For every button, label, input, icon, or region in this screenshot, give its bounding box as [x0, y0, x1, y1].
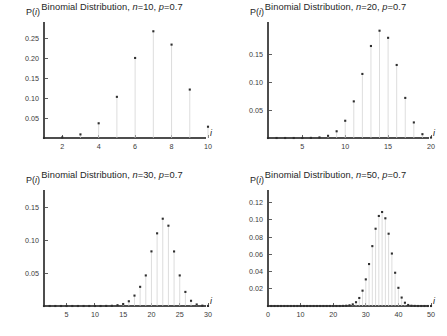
svg-text:i: i — [210, 128, 213, 138]
svg-text:40: 40 — [394, 310, 402, 319]
svg-text:50: 50 — [427, 310, 435, 319]
plot-area-n30: P(i)i0.050.100.1551015202530 — [0, 168, 224, 336]
chart-panel-n10: Binomial Distribution, n=10, p=0.7 P(i)i… — [0, 0, 224, 168]
svg-text:20: 20 — [147, 310, 155, 319]
svg-text:20: 20 — [427, 142, 435, 151]
svg-text:0.05: 0.05 — [25, 269, 39, 278]
svg-text:10: 10 — [297, 310, 305, 319]
svg-text:0: 0 — [266, 310, 270, 319]
svg-text:25: 25 — [176, 310, 184, 319]
chart-panel-n20: Binomial Distribution, n=20, p=0.7 P(i)i… — [224, 0, 447, 168]
svg-text:0.10: 0.10 — [25, 94, 39, 103]
svg-text:30: 30 — [204, 310, 212, 319]
chart-panel-n30: Binomial Distribution, n=30, p=0.7 P(i)i… — [0, 168, 224, 336]
svg-text:30: 30 — [362, 310, 370, 319]
svg-text:0.08: 0.08 — [249, 233, 263, 242]
svg-text:P(i): P(i) — [26, 7, 40, 17]
svg-text:P(i): P(i) — [26, 175, 40, 185]
svg-text:10: 10 — [341, 142, 349, 151]
svg-text:20: 20 — [329, 310, 337, 319]
svg-text:P(i): P(i) — [250, 7, 264, 17]
plot-area-n20: P(i)i0.050.100.155101520 — [224, 0, 447, 168]
svg-text:0.04: 0.04 — [249, 267, 263, 276]
svg-text:15: 15 — [119, 310, 127, 319]
svg-text:0.02: 0.02 — [249, 284, 263, 293]
svg-text:0.25: 0.25 — [25, 34, 39, 43]
svg-text:0.10: 0.10 — [249, 78, 263, 87]
svg-text:5: 5 — [65, 310, 69, 319]
svg-text:10: 10 — [91, 310, 99, 319]
svg-text:i: i — [433, 296, 436, 306]
svg-text:2: 2 — [60, 142, 64, 151]
svg-text:0.15: 0.15 — [25, 203, 39, 212]
svg-text:0.15: 0.15 — [249, 50, 263, 59]
svg-text:0.05: 0.05 — [249, 106, 263, 115]
svg-text:15: 15 — [384, 142, 392, 151]
svg-text:P(i): P(i) — [250, 175, 264, 185]
svg-text:0.06: 0.06 — [249, 250, 263, 259]
figure-grid: Binomial Distribution, n=10, p=0.7 P(i)i… — [0, 0, 447, 336]
plot-area-n50: P(i)i0.020.040.060.080.100.1201020304050 — [224, 168, 447, 336]
svg-text:8: 8 — [170, 142, 174, 151]
plot-area-n10: P(i)i0.050.100.150.200.25246810 — [0, 0, 224, 168]
svg-text:0.05: 0.05 — [25, 114, 39, 123]
chart-panel-n50: Binomial Distribution, n=50, p=0.7 P(i)i… — [224, 168, 447, 336]
svg-text:0.15: 0.15 — [25, 74, 39, 83]
svg-text:0.10: 0.10 — [249, 215, 263, 224]
svg-text:i: i — [210, 296, 213, 306]
svg-text:10: 10 — [204, 142, 212, 151]
svg-text:0.12: 0.12 — [249, 198, 263, 207]
svg-text:0.10: 0.10 — [25, 236, 39, 245]
svg-text:0.20: 0.20 — [25, 54, 39, 63]
svg-text:i: i — [433, 128, 436, 138]
svg-text:5: 5 — [300, 142, 304, 151]
svg-text:4: 4 — [97, 142, 101, 151]
svg-text:6: 6 — [133, 142, 137, 151]
